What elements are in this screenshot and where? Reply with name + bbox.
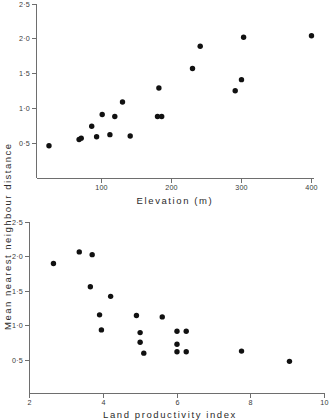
x-tick-label: 200	[165, 183, 178, 192]
data-point	[79, 135, 84, 140]
data-point	[51, 261, 56, 266]
data-point	[88, 284, 93, 289]
data-point	[120, 99, 125, 104]
data-point	[137, 330, 142, 335]
data-point	[309, 33, 314, 38]
x-tick-label: 10	[320, 398, 328, 407]
data-point	[89, 124, 94, 129]
data-point	[233, 88, 238, 93]
data-point	[160, 314, 165, 319]
data-point	[137, 340, 142, 345]
x-tick-label: 400	[305, 183, 318, 192]
y-tick-labels-top: 2·5 2·0 1·5 1·0 0·5	[19, 0, 30, 148]
y-tick-label: 1·0	[12, 321, 23, 330]
chart-elevation: 2·5 2·0 1·5 1·0 0·5 100 200 300 400 Elev…	[19, 0, 318, 206]
x-tick-labels-bottom: 2 4 6 8 10	[27, 398, 328, 407]
data-point	[198, 44, 203, 49]
data-point	[156, 85, 161, 90]
x-tick-label: 2	[27, 398, 31, 407]
data-point	[97, 312, 102, 317]
data-point	[287, 359, 292, 364]
data-point	[159, 114, 164, 119]
data-point	[108, 294, 113, 299]
data-point	[174, 349, 179, 354]
data-point	[128, 133, 133, 138]
data-point	[99, 327, 104, 332]
data-point	[174, 329, 179, 334]
y-tick-label: 1·5	[12, 287, 23, 296]
y-tick-label: 2·0	[12, 252, 23, 261]
x-tick-label: 100	[95, 183, 108, 192]
data-point	[239, 77, 244, 82]
y-tick-label: 2·5	[12, 218, 23, 227]
data-points-elevation	[46, 33, 314, 148]
data-point	[134, 313, 139, 318]
data-point	[89, 252, 94, 257]
x-axis-label-top: Elevation (m)	[137, 195, 214, 206]
x-tick-label: 4	[101, 398, 105, 407]
data-point	[174, 342, 179, 347]
data-point	[239, 348, 244, 353]
y-ticks-top	[32, 5, 37, 144]
x-axis-label-bottom: Land productivity index	[103, 409, 237, 420]
scatter-figure: Mean nearest neighbour distance 2·5 2·0 …	[0, 0, 331, 420]
y-tick-label: 0·5	[19, 139, 30, 148]
data-point	[94, 134, 99, 139]
y-tick-label: 0·5	[12, 356, 23, 365]
x-tick-label: 6	[175, 398, 179, 407]
data-point	[77, 249, 82, 254]
x-tick-labels-top: 100 200 300 400	[95, 183, 318, 192]
y-ticks-bottom	[25, 223, 30, 361]
data-point	[46, 143, 51, 148]
data-point	[100, 112, 105, 117]
data-point	[141, 350, 146, 355]
chart-land-productivity: 2·5 2·0 1·5 1·0 0·5 2 4 6 8 10 Land prod…	[12, 218, 329, 420]
x-tick-label: 300	[235, 183, 248, 192]
y-tick-label: 2·0	[19, 34, 30, 43]
data-point	[190, 66, 195, 71]
data-point	[184, 349, 189, 354]
data-point	[241, 35, 246, 40]
data-points-land-productivity	[51, 249, 292, 364]
data-point	[184, 329, 189, 334]
y-tick-label: 1·5	[19, 69, 30, 78]
shared-y-axis-label: Mean nearest neighbour distance	[2, 142, 13, 330]
y-tick-label: 1·0	[19, 104, 30, 113]
x-tick-label: 8	[248, 398, 252, 407]
data-point	[112, 114, 117, 119]
y-tick-labels-bottom: 2·5 2·0 1·5 1·0 0·5	[12, 218, 23, 365]
y-tick-label: 2·5	[19, 0, 30, 9]
x-ticks-top	[102, 179, 312, 184]
data-point	[107, 132, 112, 137]
